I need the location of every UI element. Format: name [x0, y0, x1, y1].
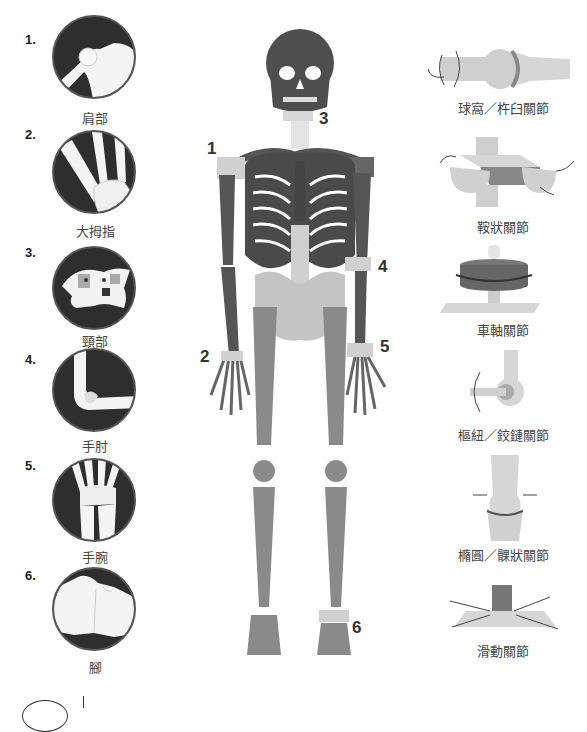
skeleton-marker-4: 4 — [378, 257, 387, 277]
gliding-joint-icon — [450, 585, 560, 635]
joint-type-label: 球窩／杵臼關節 — [418, 98, 587, 117]
condyloid-joint-icon — [465, 455, 545, 545]
elbow-joint-icon — [52, 348, 136, 432]
item-number: 4. — [25, 352, 36, 367]
thumb-joint-icon — [52, 130, 136, 214]
item-label: 肩部 — [45, 108, 145, 127]
hinge-joint-icon — [470, 350, 550, 420]
skeleton-marker-1: 1 — [207, 139, 216, 159]
partial-circle-icon — [22, 700, 68, 732]
item-label: 手肘 — [45, 436, 145, 455]
item-label: 手腕 — [45, 547, 145, 566]
skeleton-marker-6: 6 — [352, 618, 361, 638]
saddle-joint-icon — [430, 137, 580, 207]
wrist-joint-icon — [52, 458, 136, 542]
joint-type-label: 樞紐／鉸鏈關節 — [418, 425, 587, 444]
joint-type-label: 滑動關節 — [418, 641, 587, 660]
item-number: 2. — [25, 127, 36, 142]
skeleton-marker-2: 2 — [200, 347, 209, 367]
foot-joint-icon — [52, 567, 136, 651]
item-number: 3. — [25, 245, 36, 260]
joint-type-label: 橢圓／髁狀關節 — [418, 545, 587, 564]
item-number: 6. — [25, 568, 36, 583]
joint-type-label: 車軸關節 — [418, 320, 587, 339]
joint-type-label: 鞍狀關節 — [418, 217, 587, 236]
item-label: 腳 — [45, 657, 145, 676]
skeleton-marker-5: 5 — [380, 337, 389, 357]
item-label: 大拇指 — [45, 221, 145, 240]
item-number: 1. — [25, 32, 36, 47]
item-number: 5. — [25, 458, 36, 473]
skeleton-marker-3: 3 — [319, 109, 328, 129]
neck-vertebra-icon — [52, 246, 136, 330]
skeleton-figure: 1 2 3 4 5 6 — [195, 25, 405, 655]
divider — [83, 696, 84, 708]
pivot-joint-icon — [440, 245, 560, 315]
shoulder-joint-icon — [52, 15, 136, 99]
ball-and-socket-icon — [420, 45, 570, 95]
